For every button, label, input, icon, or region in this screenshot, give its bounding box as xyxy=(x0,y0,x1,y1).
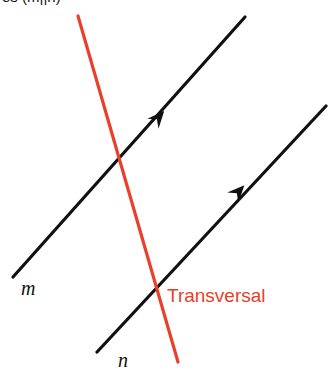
line-m xyxy=(13,17,245,277)
label-transversal: Transversal xyxy=(167,286,266,305)
label-line-n: n xyxy=(118,350,128,370)
line-m-group xyxy=(13,17,245,277)
line-m-direction-arrow-icon xyxy=(147,111,164,129)
geometry-diagram: es (m||n) m n Transversal xyxy=(0,0,328,377)
parallel-lines-transversal-svg xyxy=(0,0,328,377)
line-n-direction-arrow-icon xyxy=(227,185,244,203)
label-line-m: m xyxy=(21,278,35,298)
